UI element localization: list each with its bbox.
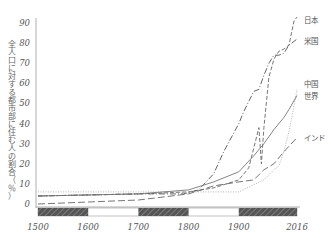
timeline-bar <box>38 208 297 216</box>
series-label: インド <box>304 134 325 143</box>
y-tick-label: 70 <box>19 58 30 68</box>
y-tick-label: 50 <box>19 98 30 108</box>
series-line <box>38 89 297 191</box>
x-tick-label: 1600 <box>77 222 99 232</box>
y-tick-label: 60 <box>19 78 30 88</box>
y-tick-label: 30 <box>19 139 30 149</box>
y-tick-label: 10 <box>19 179 30 189</box>
series-label: 米国 <box>304 36 318 46</box>
series-label: 日本 <box>304 15 319 25</box>
y-tick-label: 20 <box>18 159 30 169</box>
series-lines <box>38 17 297 204</box>
series-line <box>38 95 297 196</box>
timeline-segment <box>239 208 297 216</box>
x-tick-label: 1700 <box>128 222 150 232</box>
svg-text:）: ） <box>8 192 16 201</box>
series-line <box>38 17 297 196</box>
x-tick-label: 1800 <box>178 222 200 232</box>
x-tick-label: 2016 <box>285 222 308 232</box>
series-label: 中国 <box>304 79 318 89</box>
y-axis-label: 全人口に対する都市部に住む人の割合（％） <box>8 39 16 201</box>
y-tick-label: 90 <box>19 18 30 28</box>
series-label: 世界 <box>304 91 319 101</box>
series-labels: 日本米国中国世界インド <box>304 15 325 143</box>
line-chart: 0102030405060708090150016001700180019002… <box>0 0 331 246</box>
timeline-segment <box>38 208 88 216</box>
x-tick-label: 1900 <box>228 222 250 232</box>
y-tick-label: 80 <box>19 38 30 48</box>
series-line <box>38 39 297 196</box>
timeline-segment <box>138 208 188 216</box>
x-tick-label: 1500 <box>27 222 49 232</box>
y-tick-label: 0 <box>25 199 31 209</box>
axes: 0102030405060708090150016001700180019002… <box>18 18 308 232</box>
y-tick-label: 40 <box>18 119 30 129</box>
